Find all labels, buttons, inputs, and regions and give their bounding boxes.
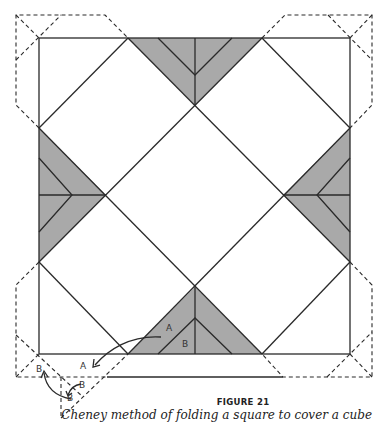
folding-diagram: A B A B B B (0, 0, 386, 438)
figure-caption: Cheney method of folding a square to cov… (61, 408, 372, 422)
label-a-target: A (80, 361, 87, 371)
label-b-flap-1: B (36, 364, 42, 374)
figure-number: FIGURE 21 (0, 397, 386, 407)
label-b-square: B (182, 339, 188, 349)
label-b-flap-2: B (79, 380, 85, 390)
label-a-square: A (166, 323, 173, 333)
